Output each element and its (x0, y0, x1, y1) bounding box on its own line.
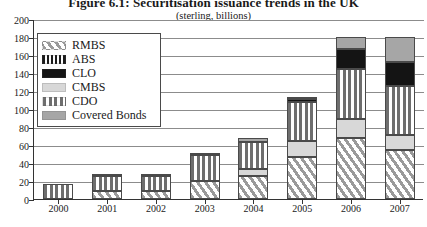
bar-segment-cdo (43, 184, 73, 199)
chart-root: Figure 6.1: Securitisation issuance tren… (0, 0, 427, 227)
y-axis-tick (29, 56, 34, 57)
legend-swatch-icon (42, 41, 66, 50)
legend-item-label: CDO (72, 95, 97, 108)
y-axis-label: 200 (0, 15, 29, 26)
bar-segment-cmbs (336, 119, 366, 138)
y-axis-tick (29, 74, 34, 75)
legend-item-rmbs[interactable]: RMBS (42, 38, 155, 52)
bar-2006[interactable] (336, 19, 366, 199)
legend-swatch-icon (42, 69, 66, 78)
legend-item-label: CMBS (72, 81, 105, 94)
y-axis-tick (29, 146, 34, 147)
bar-segment-abs (92, 174, 122, 176)
y-axis-tick (29, 200, 34, 201)
legend-swatch-icon (42, 83, 66, 92)
legend-item-label: CLO (72, 67, 96, 80)
bar-segment-covered-bonds (385, 37, 415, 62)
bar-segment-cmbs (238, 169, 268, 175)
bar-segment-covered-bonds (336, 37, 366, 49)
y-axis-label: 180 (0, 33, 29, 44)
bar-segment-covered-bonds (238, 138, 268, 143)
y-axis-label: 20 (0, 177, 29, 188)
legend-item-label: RMBS (72, 39, 105, 52)
legend-item-cdo[interactable]: CDO (42, 94, 155, 108)
bar-segment-cdo (336, 69, 366, 119)
bar-segment-rmbs (385, 150, 415, 199)
bar-segment-clo (287, 99, 317, 102)
x-axis-label: 2005 (292, 203, 312, 214)
bar-2005[interactable] (287, 19, 317, 199)
bar-segment-rmbs (238, 176, 268, 199)
legend-item-label: ABS (72, 53, 95, 66)
legend-swatch-icon (42, 55, 66, 64)
legend-item-covered-bonds[interactable]: Covered Bonds (42, 108, 155, 122)
bar-segment-covered-bonds (287, 97, 317, 99)
y-axis-label: 0 (0, 195, 29, 206)
x-axis-label: 2001 (97, 203, 117, 214)
bar-segment-cdo (141, 176, 171, 191)
y-axis-tick (29, 182, 34, 183)
x-axis-label: 2000 (48, 203, 68, 214)
bar-segment-rmbs (141, 191, 171, 199)
y-axis-label: 40 (0, 159, 29, 170)
bar-segment-rmbs (287, 157, 317, 199)
y-axis-tick (29, 164, 34, 165)
y-axis-label: 60 (0, 141, 29, 152)
legend-item-cmbs[interactable]: CMBS (42, 80, 155, 94)
bar-segment-cdo (92, 176, 122, 191)
x-axis-label: 2004 (243, 203, 263, 214)
legend-swatch-icon (42, 97, 66, 106)
y-axis-label: 120 (0, 87, 29, 98)
y-axis-tick (29, 110, 34, 111)
bar-segment-rmbs (92, 191, 122, 199)
bar-segment-cdo (238, 142, 268, 169)
legend-item-clo[interactable]: CLO (42, 66, 155, 80)
x-axis-label: 2003 (195, 203, 215, 214)
y-axis-label: 100 (0, 105, 29, 116)
bar-segment-cdo (287, 102, 317, 141)
bar-segment-cmbs (385, 135, 415, 150)
bar-segment-abs (141, 174, 171, 176)
bar-segment-clo (385, 62, 415, 85)
x-axis-label: 2006 (341, 203, 361, 214)
x-axis-label: 2007 (390, 203, 410, 214)
y-axis-label: 160 (0, 51, 29, 62)
bar-segment-cdo (385, 86, 415, 136)
bar-2003[interactable] (190, 19, 220, 199)
bar-segment-abs (190, 153, 220, 155)
bar-segment-cdo (190, 155, 220, 181)
bar-segment-clo (336, 49, 366, 69)
legend-item-label: Covered Bonds (72, 109, 146, 122)
y-axis-label: 80 (0, 123, 29, 134)
bar-segment-rmbs (336, 138, 366, 199)
y-axis-tick (29, 92, 34, 93)
x-axis-label: 2002 (146, 203, 166, 214)
y-axis-tick (29, 128, 34, 129)
y-axis-label: 140 (0, 69, 29, 80)
legend-swatch-icon (42, 111, 66, 120)
bar-2007[interactable] (385, 19, 415, 199)
bar-segment-rmbs (190, 181, 220, 199)
bar-segment-cmbs (287, 141, 317, 157)
bar-2004[interactable] (238, 19, 268, 199)
y-axis-tick (29, 20, 34, 21)
chart-legend: RMBSABSCLOCMBSCDOCovered Bonds (37, 33, 161, 127)
legend-item-abs[interactable]: ABS (42, 52, 155, 66)
y-axis-tick (29, 38, 34, 39)
